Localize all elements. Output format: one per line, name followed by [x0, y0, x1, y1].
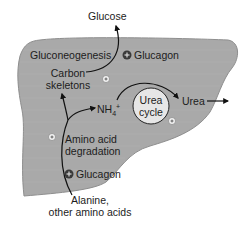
carbon-line1: Carbon [40, 67, 96, 79]
urea-cycle-line2: cycle [133, 106, 169, 118]
glucagon-top-label: Glucagon [134, 49, 179, 61]
glucagon-bottom-label: Glucagon [76, 168, 121, 180]
alanine-line1: Alanine, [30, 194, 150, 206]
amino-line1: Amino acid [65, 133, 120, 145]
urea-label: Urea [182, 95, 205, 107]
glucose-label: Glucose [88, 10, 127, 22]
gluconeogenesis-label: Gluconeogenesis [30, 49, 111, 61]
liver-shape [18, 38, 238, 196]
liver-diagram-graphics [0, 0, 248, 226]
nh4-text: NH [97, 103, 112, 115]
alanine-label: Alanine, other amino acids [30, 194, 150, 218]
amino-line2: degradation [65, 145, 120, 157]
amino-acid-degradation-label: Amino acid degradation [65, 133, 120, 157]
urea-cycle-label: Urea cycle [133, 94, 169, 118]
carbon-line2: skeletons [40, 79, 96, 91]
nh4-superscript: + [116, 103, 120, 110]
alanine-line2: other amino acids [30, 206, 150, 218]
carbon-skeletons-label: Carbon skeletons [40, 67, 96, 91]
nh4-subscript: 4 [112, 110, 116, 117]
urea-cycle-line1: Urea [133, 94, 169, 106]
nh4-label: NH4+ [97, 103, 120, 115]
